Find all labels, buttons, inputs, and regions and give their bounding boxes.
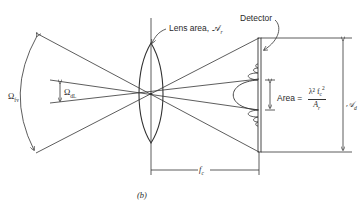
omega-fv-label: Ωfv [8, 92, 19, 103]
airy-pattern [233, 80, 258, 110]
omega-dl-label: ΩdL [64, 88, 76, 99]
detector-label: Detector [240, 14, 272, 23]
lens-leader-arrow [152, 29, 166, 43]
omega-fv-arc [20, 36, 37, 150]
detector-leader-arrow [264, 20, 279, 50]
ray-inner-top [50, 80, 259, 110]
detector-plate [258, 38, 261, 152]
lens-label: Lens area, 𝒜r [169, 24, 223, 35]
area-formula: Area = λ² fc2 Ar [277, 86, 326, 111]
detector-area-label: 𝒜d [346, 100, 357, 111]
panel-label: (b) [137, 191, 147, 200]
ray-inner-bottom [50, 79, 259, 103]
focal-length-label: fc [199, 165, 204, 176]
